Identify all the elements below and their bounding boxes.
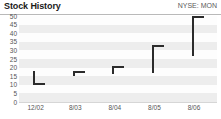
grid-band [19,76,217,85]
x-axis-tick-label: 8/05 [148,104,161,111]
grid-band [19,25,217,34]
ticker-symbol: NYSE: MON [178,2,217,9]
y-axis-tick-label: 20 [10,64,17,71]
grid-band [19,93,217,102]
x-axis-line [19,102,217,103]
close-tick [192,16,204,18]
close-tick [33,83,45,85]
y-axis-tick-label: 25 [10,56,17,63]
y-axis-tick-label: 45 [10,21,17,28]
grid-band [19,42,217,51]
close-tick [73,71,85,73]
x-axis-labels: 12/028/038/048/058/06 [19,104,217,116]
y-axis-tick-label: 30 [10,47,17,54]
range-bar [192,16,194,56]
widget-header: Stock History NYSE: MON [0,0,221,15]
chart-plot-area [19,16,217,102]
y-axis-tick-label: 0 [13,99,17,106]
y-axis-tick-label: 10 [10,81,17,88]
y-axis-tick-label: 35 [10,38,17,45]
x-axis-tick-label: 8/03 [69,104,82,111]
y-axis-labels: 05101520253035404550 [0,16,18,102]
header-divider [0,14,221,15]
y-axis-tick-label: 5 [13,90,17,97]
y-axis-tick-label: 50 [10,13,17,20]
y-axis-tick-label: 40 [10,30,17,37]
stock-history-widget: Stock History NYSE: MON 0510152025303540… [0,0,221,119]
range-bar [33,71,35,83]
y-axis-tick-label: 15 [10,73,17,80]
close-tick [152,45,164,47]
x-axis-tick-label: 8/04 [109,104,122,111]
range-bar [152,45,154,73]
x-axis-tick-label: 12/02 [27,104,43,111]
x-axis-tick-label: 8/06 [188,104,201,111]
close-tick [112,66,124,68]
page-title: Stock History [4,1,61,11]
